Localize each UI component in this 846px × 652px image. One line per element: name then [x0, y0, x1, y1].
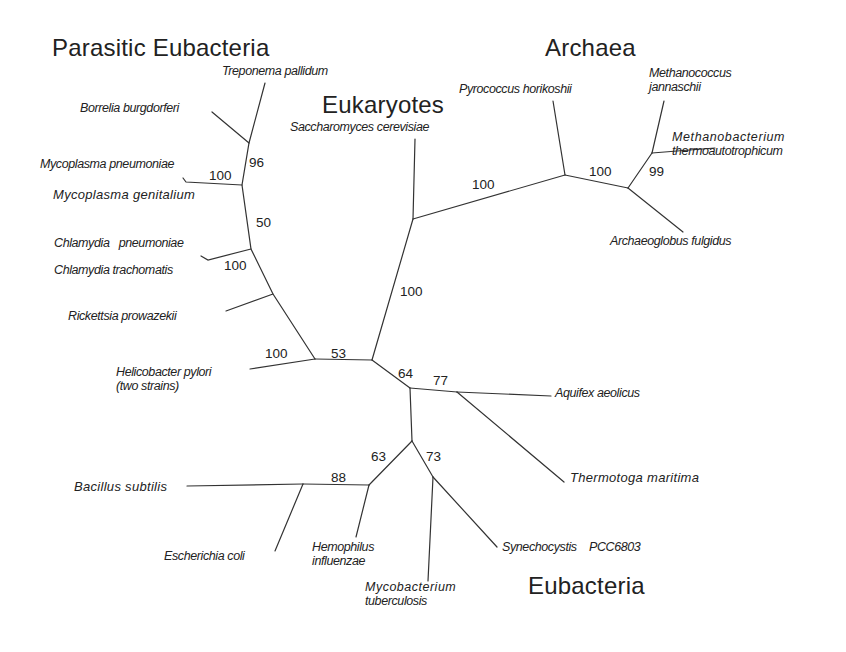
- bootstrap-100-archaea-stem: 100: [472, 177, 495, 193]
- taxon-mycobacterium-line1: Mycobacterium: [365, 580, 456, 594]
- branch-archaeoglobus: [628, 188, 683, 232]
- taxon-thermotoga-maritima: Thermotoga maritima: [570, 471, 699, 486]
- taxon-methanobacterium-thermoautotrophicum: Methanobacterium thermoautotrophicum: [672, 130, 785, 159]
- taxon-chlamydia-trachomatis: Chlamydia trachomatis: [54, 263, 173, 277]
- bootstrap-100-eukaryotes: 100: [400, 284, 423, 300]
- taxon-aquifex-aeolicus: Aquifex aeolicus: [555, 386, 640, 400]
- branch-rickettsia: [226, 294, 273, 311]
- branch-borrelia: [212, 112, 249, 143]
- taxon-methanococcus-jannaschii: Methanococcus jannaschii: [649, 66, 731, 95]
- taxon-helicobacter-pylori-line1: Helicobacter pylori: [116, 365, 211, 379]
- taxon-hemophilus-influenzae: Hemophilus influenzae: [312, 540, 374, 569]
- branch-pyrococcus: [553, 101, 565, 175]
- taxon-methanobacterium-line2: thermoautotrophicum: [672, 144, 785, 158]
- bootstrap-96: 96: [249, 155, 264, 171]
- group-label-eukaryotes: Eukaryotes: [322, 91, 444, 119]
- branch-aquifex: [457, 392, 551, 396]
- group-label-parasitic-eubacteria: Parasitic Eubacteria: [52, 34, 269, 62]
- taxon-mycoplasma-pneumoniae: Mycoplasma pneumoniae: [40, 157, 174, 171]
- bootstrap-100-chlamydia: 100: [224, 258, 247, 274]
- branch-synechocystis: [433, 477, 497, 547]
- taxon-saccharomyces-cerevisiae: Saccharomyces cerevisiae: [290, 120, 429, 134]
- branch-methanococcus: [652, 101, 664, 153]
- taxon-helicobacter-pylori-line2: (two strains): [116, 379, 211, 393]
- taxon-rickettsia-prowazekii: Rickettsia prowazekii: [68, 309, 176, 323]
- bootstrap-88: 88: [331, 470, 346, 486]
- branch-bacillus: [187, 484, 303, 486]
- taxon-escherichia-coli: Escherichia coli: [164, 549, 244, 563]
- bootstrap-77: 77: [433, 373, 448, 389]
- taxon-methanococcus-line2: jannaschii: [649, 80, 731, 94]
- branch-thermotoga: [457, 392, 564, 482]
- taxon-archaeoglobus-fulgidus: Archaeoglobus fulgidus: [610, 234, 731, 248]
- taxon-mycobacterium-line2: tuberculosis: [365, 594, 456, 608]
- taxon-borrelia-burgdorferi: Borrelia burgdorferi: [80, 101, 179, 115]
- group-label-eubacteria: Eubacteria: [528, 572, 645, 600]
- taxon-chlamydia-pneumoniae: Chlamydia pneumoniae: [54, 236, 183, 250]
- group-label-archaea: Archaea: [545, 34, 636, 62]
- taxon-hemophilus-line2: influenzae: [312, 554, 374, 568]
- bootstrap-99: 99: [649, 164, 664, 180]
- bootstrap-63: 63: [371, 449, 386, 465]
- bootstrap-100-archaea: 100: [589, 164, 612, 180]
- taxon-mycobacterium-tuberculosis: Mycobacterium tuberculosis: [365, 580, 456, 609]
- bootstrap-64: 64: [398, 366, 413, 382]
- bootstrap-53: 53: [331, 346, 346, 362]
- bootstrap-73: 73: [426, 449, 441, 465]
- taxon-synechocystis-pcc6803: Synechocystis PCC6803: [502, 540, 640, 554]
- taxon-hemophilus-line1: Hemophilus: [312, 540, 374, 554]
- bootstrap-100-helicobacter: 100: [265, 346, 288, 362]
- branch-saccharomyces: [413, 139, 415, 219]
- branch-mycobacterium: [428, 477, 433, 581]
- taxon-helicobacter-pylori: Helicobacter pylori (two strains): [116, 365, 211, 394]
- branch-ecoli: [275, 484, 303, 551]
- branch-hemophilus: [356, 485, 369, 537]
- bootstrap-50: 50: [256, 215, 271, 231]
- taxon-mycoplasma-genitalium: Mycoplasma genitalium: [53, 188, 195, 203]
- taxon-pyrococcus-horikoshii: Pyrococcus horikoshii: [459, 82, 571, 96]
- taxon-treponema-pallidum: Treponema pallidum: [222, 64, 328, 78]
- branch-77: [410, 388, 457, 392]
- branch-eubact-stem: [410, 388, 412, 441]
- taxon-methanococcus-line1: Methanococcus: [649, 66, 731, 80]
- taxon-methanobacterium-line1: Methanobacterium: [672, 130, 785, 144]
- bootstrap-100-mycoplasma: 100: [209, 168, 232, 184]
- taxon-bacillus-subtilis: Bacillus subtilis: [74, 480, 167, 495]
